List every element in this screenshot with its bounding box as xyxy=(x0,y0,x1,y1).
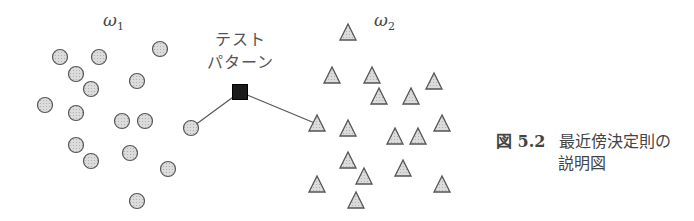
class2-point xyxy=(434,115,450,131)
class2-point xyxy=(340,120,356,136)
class2-point xyxy=(364,67,380,83)
test-pattern-label-line2: パターン xyxy=(198,51,282,74)
class2-point xyxy=(340,152,356,168)
class1-point xyxy=(84,82,99,97)
class1-point xyxy=(123,146,138,161)
class1-point xyxy=(130,74,145,89)
caption-line1: 図 5.2最近傍決定則の xyxy=(496,131,671,153)
test-pattern-marker xyxy=(233,85,248,100)
class2-point xyxy=(309,176,325,192)
class2-triangles xyxy=(309,24,450,208)
figure-caption: 図 5.2最近傍決定則の 説明図 xyxy=(496,131,671,175)
class1-point xyxy=(38,98,53,113)
class1-point xyxy=(69,106,84,121)
nearest-neighbor-links xyxy=(191,92,317,128)
class1-point xyxy=(130,194,145,209)
class2-label-subscript: 2 xyxy=(388,20,395,33)
test-pattern-label-line1: テスト xyxy=(198,28,282,51)
class1-label-subscript: 1 xyxy=(117,20,124,33)
class2-point xyxy=(324,67,340,83)
class1-point xyxy=(92,50,107,65)
class1-point xyxy=(69,67,84,82)
class2-point xyxy=(403,88,419,104)
class2-point xyxy=(309,115,325,131)
figure-number: 図 5.2 xyxy=(496,132,545,151)
class1-label-symbol: ω xyxy=(103,10,117,30)
test-pattern-square xyxy=(233,85,248,100)
class2-point xyxy=(395,160,411,176)
class1-point xyxy=(84,154,99,169)
link-line xyxy=(240,92,317,124)
class2-point xyxy=(426,73,442,89)
class2-point xyxy=(348,192,364,208)
caption-title-line1: 最近傍決定則の xyxy=(559,132,671,151)
class1-point xyxy=(153,42,168,57)
class1-circles xyxy=(38,42,199,209)
class2-label: ω2 xyxy=(374,10,395,33)
class1-point xyxy=(138,114,153,129)
caption-title-line2: 説明図 xyxy=(496,153,671,175)
class1-point xyxy=(69,138,84,153)
class1-point xyxy=(53,50,68,65)
class2-label-symbol: ω xyxy=(374,10,388,30)
class1-point xyxy=(115,114,130,129)
class2-point xyxy=(340,24,356,40)
class2-point xyxy=(410,128,426,144)
class1-label: ω1 xyxy=(103,10,124,33)
class2-point xyxy=(387,128,403,144)
class1-point xyxy=(184,121,199,136)
class2-point xyxy=(434,176,450,192)
class2-point xyxy=(371,88,387,104)
class1-point xyxy=(161,162,176,177)
class2-point xyxy=(356,168,372,184)
test-pattern-label: テスト パターン xyxy=(198,28,282,74)
